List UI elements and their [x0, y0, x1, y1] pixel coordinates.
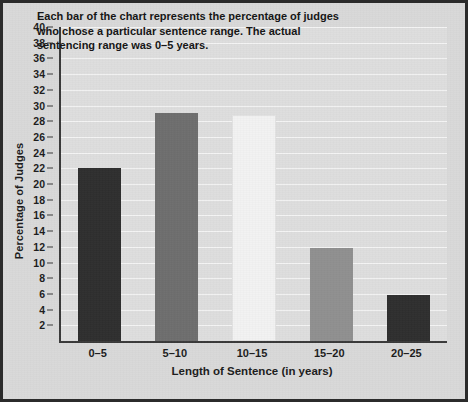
y-tick-mark — [47, 246, 53, 247]
x-tick-label: 5–10 — [136, 347, 213, 359]
y-tick-label: 12 — [33, 241, 45, 253]
y-tick-mark — [47, 293, 53, 294]
bar — [78, 168, 121, 341]
x-axis-ticks: 0–55–1010–1515–2020–25 — [59, 347, 445, 359]
y-tick-label: 20 — [33, 178, 45, 190]
y-tick-label: 28 — [33, 115, 45, 127]
y-tick-label: 36 — [33, 52, 45, 64]
y-tick-label: 22 — [33, 162, 45, 174]
y-tick-mark — [47, 152, 53, 153]
y-tick-mark — [47, 168, 53, 169]
bar — [155, 113, 198, 341]
y-tick-label: 14 — [33, 225, 45, 237]
y-tick-mark — [47, 121, 53, 122]
bar — [310, 248, 353, 341]
y-tick-mark — [47, 105, 53, 106]
y-tick-label: 2 — [39, 319, 45, 331]
y-axis-ticks: 246810121416182022242628303234363840 — [27, 27, 53, 341]
bar-slot — [138, 27, 215, 341]
y-tick-mark — [47, 231, 53, 232]
y-tick-label: 30 — [33, 100, 45, 112]
x-tick-label: 20–25 — [368, 347, 445, 359]
y-tick-label: 10 — [33, 257, 45, 269]
y-tick-mark — [47, 89, 53, 90]
y-tick-mark — [47, 199, 53, 200]
y-tick-label: 8 — [39, 272, 45, 284]
x-tick-label: 10–15 — [213, 347, 290, 359]
bar-slot — [215, 27, 292, 341]
chart-figure: Percentage of Judges 2468101214161820222… — [0, 0, 468, 402]
y-tick-mark — [47, 262, 53, 263]
bar-slot — [370, 27, 447, 341]
y-tick-label: 6 — [39, 288, 45, 300]
y-tick-mark — [47, 215, 53, 216]
bar — [387, 295, 430, 341]
plot-area — [59, 27, 447, 343]
y-tick-mark — [47, 184, 53, 185]
x-axis-title: Length of Sentence (in years) — [59, 365, 445, 377]
y-tick-label: 18 — [33, 194, 45, 206]
y-tick-label: 16 — [33, 209, 45, 221]
y-tick-mark — [47, 278, 53, 279]
x-tick-label: 0–5 — [59, 347, 136, 359]
y-tick-mark — [47, 325, 53, 326]
bar-slot — [61, 27, 138, 341]
y-tick-label: 26 — [33, 131, 45, 143]
y-axis-title-text: Percentage of Judges — [13, 143, 25, 259]
x-tick-label: 15–20 — [291, 347, 368, 359]
y-tick-label: 32 — [33, 84, 45, 96]
bar-slot — [293, 27, 370, 341]
y-tick-mark — [47, 58, 53, 59]
y-tick-mark — [47, 309, 53, 310]
y-tick-label: 24 — [33, 147, 45, 159]
y-tick-label: 34 — [33, 68, 45, 80]
chart-annotation: Each bar of the chart represents the per… — [37, 9, 355, 53]
y-tick-mark — [47, 74, 53, 75]
bar-series — [61, 27, 447, 341]
y-tick-label: 4 — [39, 304, 45, 316]
bar — [232, 115, 275, 341]
y-tick-mark — [47, 136, 53, 137]
